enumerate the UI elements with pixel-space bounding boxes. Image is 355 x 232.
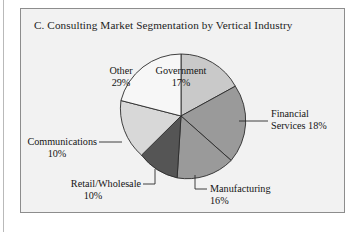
slice-label-government: Government 17% [143,65,219,88]
page-margin-rule [3,0,4,232]
slice-label-financial-services: Financial Services 18% [271,108,343,131]
slice-label-government-name: Government [143,65,219,77]
slice-label-financial-services-line1: Financial [271,108,343,120]
pie-chart: Government 17% Other 29% Financial Servi… [21,9,346,214]
slice-label-other-name: Other [97,65,145,77]
figure-root: C. Consulting Market Segmentation by Ver… [0,0,355,232]
slice-label-manufacturing-pct: 16% [210,195,300,207]
figure-frame: C. Consulting Market Segmentation by Ver… [20,8,345,213]
slice-label-communications-pct: 10% [17,148,97,160]
slice-label-retail-wholesale-name: Retail/Wholesale [45,178,141,190]
slice-label-other: Other 29% [97,65,145,88]
slice-label-financial-services-line2: Services 18% [271,120,343,132]
slice-label-communications: Communications 10% [17,136,97,159]
slice-label-other-pct: 29% [97,77,145,89]
slice-label-retail-wholesale-pct: 10% [45,190,141,202]
slice-label-manufacturing-name: Manufacturing [210,183,300,195]
slice-label-government-pct: 17% [143,77,219,89]
slice-label-communications-name: Communications [17,136,97,148]
slice-label-manufacturing: Manufacturing 16% [210,183,300,206]
slice-label-retail-wholesale: Retail/Wholesale 10% [45,178,141,201]
